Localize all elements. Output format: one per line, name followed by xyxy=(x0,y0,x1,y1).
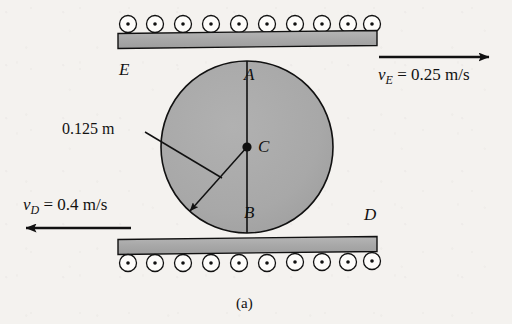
center-point-dot xyxy=(242,142,251,151)
velocity-subscript-lower: D xyxy=(31,203,40,217)
roller xyxy=(231,255,248,272)
lower-plate xyxy=(118,237,377,255)
figure-container: A B C E D 0.125 m vE = 0.25 m/s vD = 0.4… xyxy=(0,0,512,324)
roller xyxy=(120,16,137,33)
point-label-c: C xyxy=(258,138,269,155)
roller xyxy=(259,255,276,272)
roller xyxy=(287,254,304,271)
roller xyxy=(314,16,331,33)
roller xyxy=(203,255,220,272)
bottom-roller-group xyxy=(120,253,381,272)
roller xyxy=(231,16,248,33)
velocity-equals-upper: = xyxy=(397,65,407,84)
roller xyxy=(340,254,357,271)
velocity-symbol-lower: v xyxy=(23,195,31,214)
roller xyxy=(120,255,137,272)
roller xyxy=(175,16,192,33)
radius-dimension-label: 0.125 m xyxy=(62,121,114,137)
roller xyxy=(147,16,164,33)
roller xyxy=(175,255,192,272)
top-roller-group xyxy=(120,16,381,33)
roller xyxy=(147,255,164,272)
velocity-value-lower: 0.4 xyxy=(57,195,78,214)
upper-plate xyxy=(118,31,377,49)
velocity-symbol-upper: v xyxy=(378,65,386,84)
point-label-a: A xyxy=(244,66,254,83)
plate-label-e: E xyxy=(119,61,129,78)
roller xyxy=(287,16,304,33)
velocity-label-lower: vD = 0.4 m/s xyxy=(23,196,107,216)
velocity-subscript-upper: E xyxy=(386,73,393,87)
mechanics-diagram xyxy=(0,0,512,324)
velocity-units-upper: m/s xyxy=(445,65,470,84)
velocity-units-lower: m/s xyxy=(83,195,108,214)
velocity-value-upper: 0.25 xyxy=(411,65,441,84)
roller xyxy=(340,16,357,33)
roller xyxy=(259,16,276,33)
velocity-equals-lower: = xyxy=(43,195,53,214)
figure-caption: (a) xyxy=(236,296,253,311)
roller xyxy=(314,254,331,271)
roller xyxy=(203,16,220,33)
velocity-label-upper: vE = 0.25 m/s xyxy=(378,66,470,86)
roller xyxy=(364,253,381,270)
point-label-b: B xyxy=(244,204,254,221)
plate-label-d: D xyxy=(364,206,376,223)
